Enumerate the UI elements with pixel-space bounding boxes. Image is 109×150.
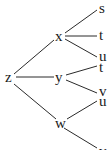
edge-z-x (14, 40, 54, 74)
edge-w-v (64, 128, 97, 148)
edge-y-t (66, 66, 97, 75)
node-x: x (55, 28, 63, 44)
edge-w-u (67, 101, 97, 119)
leaf-u-2: u (99, 93, 107, 109)
edge-x-u (65, 39, 97, 57)
tree-diagram: z x y w s t u t v u v (0, 0, 109, 150)
edge-z-w (14, 84, 56, 119)
leaf-s: s (99, 0, 105, 16)
leaf-v-2: v (99, 143, 107, 150)
edge-x-s (65, 10, 97, 33)
node-labels: z x y w s t u t v u v (5, 0, 107, 150)
leaf-t-1: t (99, 27, 104, 43)
node-y: y (55, 69, 63, 85)
edge-y-v (66, 80, 97, 93)
node-z: z (5, 69, 12, 85)
node-w: w (55, 115, 66, 131)
